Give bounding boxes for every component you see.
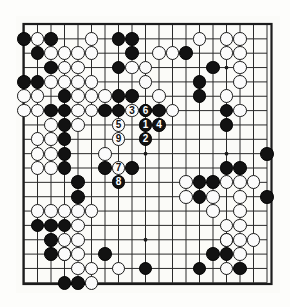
white-stone[interactable]	[71, 46, 85, 60]
go-diagram-figure: 123456789	[0, 0, 290, 307]
move-marker-5[interactable]: 5	[112, 118, 126, 132]
black-stone[interactable]	[58, 276, 72, 290]
white-stone[interactable]	[71, 233, 85, 247]
white-stone[interactable]	[44, 46, 58, 60]
white-stone[interactable]	[71, 262, 85, 276]
white-stone[interactable]	[71, 75, 85, 89]
white-stone[interactable]	[31, 147, 45, 161]
white-stone[interactable]	[44, 132, 58, 146]
white-stone[interactable]	[152, 46, 166, 60]
black-stone[interactable]	[44, 219, 58, 233]
black-stone[interactable]	[98, 247, 112, 261]
black-stone[interactable]	[233, 161, 247, 175]
black-stone[interactable]	[193, 190, 207, 204]
white-stone[interactable]	[125, 61, 139, 75]
black-stone[interactable]	[71, 190, 85, 204]
black-stone[interactable]	[17, 75, 31, 89]
black-stone[interactable]	[44, 233, 58, 247]
white-stone[interactable]	[71, 89, 85, 103]
black-stone[interactable]	[193, 75, 207, 89]
black-stone[interactable]	[44, 61, 58, 75]
black-stone[interactable]	[233, 262, 247, 276]
black-stone[interactable]	[179, 46, 193, 60]
star-point	[144, 152, 148, 156]
white-stone[interactable]	[98, 89, 112, 103]
black-stone[interactable]	[31, 75, 45, 89]
black-stone[interactable]	[260, 147, 274, 161]
white-stone[interactable]	[71, 61, 85, 75]
white-stone[interactable]	[220, 32, 234, 46]
white-stone[interactable]	[71, 204, 85, 218]
black-stone[interactable]	[220, 161, 234, 175]
white-stone[interactable]	[233, 247, 247, 261]
black-stone[interactable]	[206, 61, 220, 75]
black-stone[interactable]	[17, 32, 31, 46]
black-stone[interactable]	[98, 161, 112, 175]
white-stone[interactable]	[220, 233, 234, 247]
black-stone[interactable]	[58, 118, 72, 132]
white-stone[interactable]	[44, 161, 58, 175]
white-stone[interactable]	[233, 190, 247, 204]
white-stone[interactable]	[98, 147, 112, 161]
white-stone[interactable]	[233, 46, 247, 60]
white-stone[interactable]	[193, 32, 207, 46]
white-stone[interactable]	[233, 219, 247, 233]
black-stone[interactable]	[206, 247, 220, 261]
white-stone[interactable]	[71, 247, 85, 261]
black-stone[interactable]	[260, 190, 274, 204]
white-stone[interactable]	[17, 89, 31, 103]
white-stone[interactable]	[44, 147, 58, 161]
white-stone[interactable]	[44, 118, 58, 132]
white-stone[interactable]	[58, 75, 72, 89]
white-stone[interactable]	[85, 32, 99, 46]
black-stone[interactable]	[125, 161, 139, 175]
star-point	[144, 238, 148, 242]
white-stone[interactable]	[85, 204, 99, 218]
star-point	[225, 152, 229, 156]
white-stone[interactable]	[206, 190, 220, 204]
black-stone[interactable]	[44, 247, 58, 261]
black-stone[interactable]	[125, 46, 139, 60]
move-marker-4[interactable]: 4	[152, 118, 166, 132]
white-stone[interactable]	[233, 75, 247, 89]
white-stone[interactable]	[31, 32, 45, 46]
white-stone[interactable]	[233, 61, 247, 75]
black-stone[interactable]	[220, 118, 234, 132]
white-stone[interactable]	[179, 190, 193, 204]
black-stone[interactable]	[125, 32, 139, 46]
white-stone[interactable]	[85, 75, 99, 89]
white-stone[interactable]	[31, 204, 45, 218]
black-stone[interactable]	[58, 161, 72, 175]
white-stone[interactable]	[85, 276, 99, 290]
white-stone[interactable]	[58, 233, 72, 247]
black-stone[interactable]	[112, 32, 126, 46]
white-stone[interactable]	[206, 204, 220, 218]
white-stone[interactable]	[71, 118, 85, 132]
black-stone[interactable]	[58, 147, 72, 161]
move-marker-7[interactable]: 7	[112, 161, 126, 175]
white-stone[interactable]	[233, 204, 247, 218]
white-stone[interactable]	[71, 219, 85, 233]
white-stone[interactable]	[58, 204, 72, 218]
white-stone[interactable]	[44, 75, 58, 89]
white-stone[interactable]	[233, 32, 247, 46]
white-stone[interactable]	[152, 89, 166, 103]
white-stone[interactable]	[247, 233, 261, 247]
black-stone[interactable]	[71, 276, 85, 290]
black-stone[interactable]	[125, 89, 139, 103]
black-stone[interactable]	[44, 32, 58, 46]
move-marker-1[interactable]: 1	[139, 118, 153, 132]
white-stone[interactable]	[44, 204, 58, 218]
go-board-container[interactable]: 123456789	[16, 16, 280, 293]
white-stone[interactable]	[139, 75, 153, 89]
white-stone[interactable]	[233, 233, 247, 247]
star-point	[225, 66, 229, 70]
white-stone[interactable]	[31, 161, 45, 175]
